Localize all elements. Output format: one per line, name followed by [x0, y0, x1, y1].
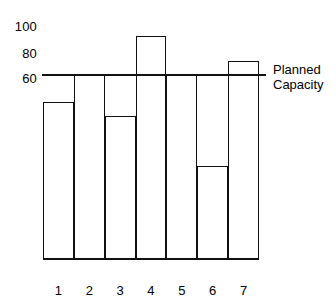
x-axis-baseline — [43, 258, 259, 260]
planned-capacity-label: Planned Capacity — [273, 62, 324, 92]
x-tick-label-2: 2 — [74, 284, 105, 296]
planned-capacity-label-line1: Planned — [273, 62, 324, 77]
planned-capacity-label-line2: Capacity — [273, 77, 324, 92]
x-tick-label-7: 7 — [228, 284, 259, 296]
x-tick-label-5: 5 — [166, 284, 197, 296]
x-tick-label-4: 4 — [136, 284, 167, 296]
x-tick-label-6: 6 — [197, 284, 228, 296]
y-tick-label-100: 100 — [15, 20, 37, 33]
bar-6[interactable] — [197, 166, 228, 258]
bar-1[interactable] — [43, 102, 74, 258]
y-tick-label-60: 60 — [22, 72, 37, 85]
plot-area: 100 80 60 1 2 3 4 5 6 7 — [43, 20, 259, 260]
planned-capacity-line — [42, 74, 266, 76]
x-tick-label-3: 3 — [105, 284, 136, 296]
bar-2[interactable] — [74, 75, 105, 258]
bar-5[interactable] — [166, 75, 197, 258]
x-tick-label-1: 1 — [43, 284, 74, 296]
bar-chart: 100 80 60 1 2 3 4 5 6 7 Planned Capacity — [0, 0, 336, 296]
bar-3[interactable] — [105, 116, 136, 258]
bar-4[interactable] — [136, 36, 167, 258]
bar-7[interactable] — [228, 61, 259, 258]
y-tick-label-80: 80 — [22, 47, 37, 60]
